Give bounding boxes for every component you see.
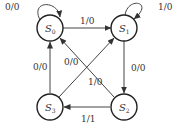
state-diagram: S0 S1 S2 S3 0/0 1/0 1/0 0/0 1/1 0/0 0/0 …: [0, 0, 177, 128]
state-s3: S3: [37, 94, 63, 120]
label-s1-s2: 0/0: [131, 63, 146, 73]
label-s2-s0: 0/0: [64, 57, 79, 67]
label-s3-s0: 0/0: [33, 62, 48, 72]
label-s2-s3: 1/1: [81, 114, 95, 124]
state-s0: S0: [37, 15, 63, 41]
state-s1: S1: [111, 15, 137, 41]
state-s2: S2: [111, 94, 137, 120]
label-s3-s1: 1/0: [88, 77, 103, 87]
label-s1-s1: 1/0: [158, 2, 173, 12]
label-s0-s0: 0/0: [5, 2, 20, 12]
label-s0-s1: 1/0: [80, 16, 95, 26]
